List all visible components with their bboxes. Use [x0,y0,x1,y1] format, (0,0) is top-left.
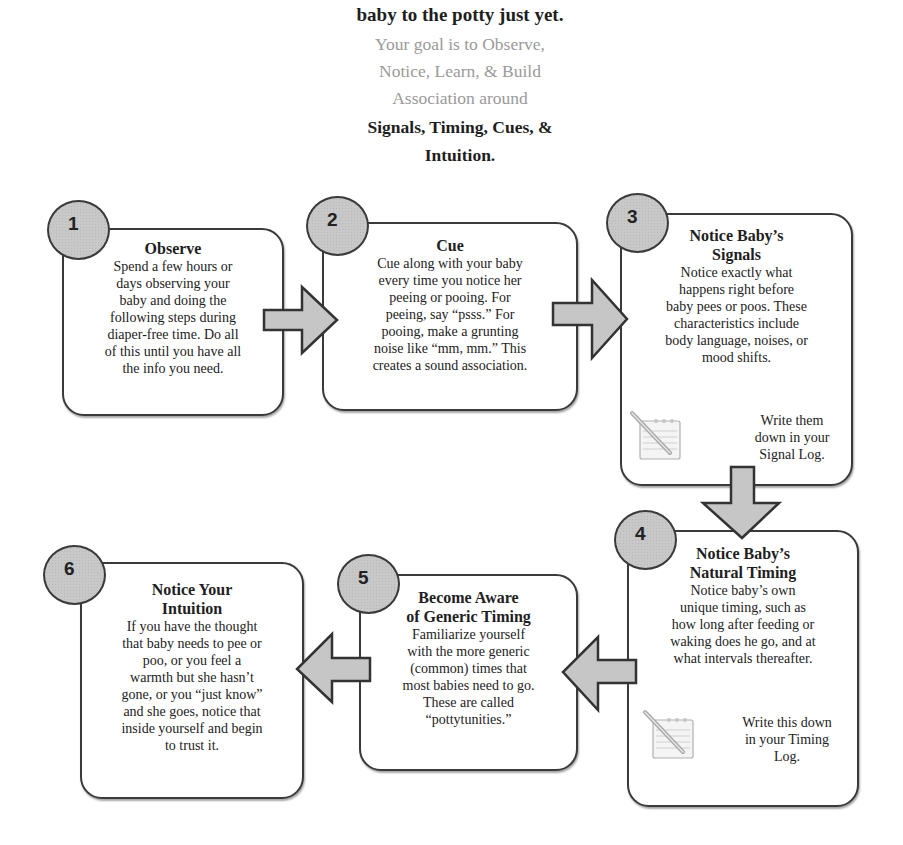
body-line: to trust it. [82,737,302,754]
header-line-2: baby to the potty just yet. [300,2,620,28]
body-line: noise like “mm, mm.” This [324,340,576,357]
body-line: pooing, make a grunting [324,323,576,340]
step-body: Notice baby’s own unique timing, such as… [629,582,857,667]
note-line: Log. [717,748,857,765]
timing-log-note: Write this down in your Timing Log. [717,714,857,765]
focus-line: Signals, Timing, Cues, & [300,113,620,141]
title-line: Intuition [82,599,302,618]
step-title: Notice Your Intuition [82,580,302,618]
goal-line: Your goal is to Observe, [300,31,620,58]
step-number: 1 [68,213,79,235]
body-line: the info you need. [64,360,282,377]
step-number: 2 [327,209,338,231]
body-line: gone, or you “just know” [82,686,302,703]
body-line: Familiarize yourself [361,626,576,643]
title-line: Signals [622,245,851,264]
title-line: Natural Timing [629,563,857,582]
notepad-pencil-icon [639,706,701,764]
body-line: (common) times that [361,660,576,677]
step-5-number-badge: 5 [337,554,400,614]
body-line: unique timing, such as [629,599,857,616]
arrow-right-icon [551,277,631,361]
body-line: with the more generic [361,643,576,660]
step-3-number-badge: 3 [606,193,669,253]
title-line: of Generic Timing [361,607,576,626]
note-line: Signal Log. [732,446,852,463]
body-line: how long after feeding or [629,616,857,633]
body-line: creates a sound association. [324,357,576,374]
step-2-box: Cue Cue along with your baby every time … [322,222,578,411]
focus-line: Intuition. [300,141,620,169]
body-line: that baby needs to pee or [82,635,302,652]
body-line: every time you notice her [324,272,576,289]
step-number: 6 [64,558,75,580]
step-body: If you have the thought that baby needs … [82,618,302,754]
body-line: waking does he go, and at [629,633,857,650]
step-body: Cue along with your baby every time you … [324,255,576,374]
note-line: Write them [732,412,852,429]
body-line: days observing your [64,275,282,292]
goal-text: Your goal is to Observe, Notice, Learn, … [300,31,620,112]
body-line: most babies need to go. [361,677,576,694]
body-line: baby pees or poos. These [622,298,851,315]
body-line: diaper-free time. Do all [64,326,282,343]
body-line: mood shifts. [622,349,851,366]
arrow-left-icon [560,634,640,714]
note-line: in your Timing [717,731,857,748]
body-line: of this until you have all [64,343,282,360]
step-6-number-badge: 6 [43,545,106,605]
arrow-down-icon [700,465,782,541]
body-line: baby and doing the [64,292,282,309]
body-line: inside yourself and begin [82,720,302,737]
body-line: what intervals thereafter. [629,650,857,667]
step-3-box: Notice Baby’s Signals Notice exactly wha… [620,213,853,486]
note-line: Write this down [717,714,857,731]
body-line: and she goes, notice that [82,703,302,720]
body-line: Cue along with your baby [324,255,576,272]
note-line: down in your [732,429,852,446]
body-line: Notice baby’s own [629,582,857,599]
step-6-box: Notice Your Intuition If you have the th… [80,562,304,799]
body-line: poo, or you feel a [82,652,302,669]
signal-log-note: Write them down in your Signal Log. [732,412,852,463]
body-line: Notice exactly what [622,264,851,281]
notepad-pencil-icon [626,407,688,465]
step-1-box: Observe Spend a few hours or days observ… [62,228,284,416]
step-number: 4 [635,523,646,545]
body-line: following steps during [64,309,282,326]
body-line: peeing, say “psss.” For [324,306,576,323]
step-number: 3 [627,206,638,228]
arrow-left-icon [294,631,374,707]
title-line: Notice Your [82,580,302,599]
step-body: Notice exactly what happens right before… [622,264,851,366]
step-1-number-badge: 1 [47,200,110,260]
step-body: Familiarize yourself with the more gener… [361,626,576,728]
body-line: characteristics include [622,315,851,332]
step-2-number-badge: 2 [306,196,369,256]
body-line: happens right before [622,281,851,298]
focus-areas: Signals, Timing, Cues, & Intuition. [300,113,620,169]
goal-line: Association around [300,85,620,112]
body-line: peeing or pooing. For [324,289,576,306]
step-number: 5 [358,567,369,589]
step-4-number-badge: 4 [614,510,677,570]
step-4-box: Notice Baby’s Natural Timing Notice baby… [627,530,859,807]
body-line: warmth but she hasn’t [82,669,302,686]
body-line: Spend a few hours or [64,258,282,275]
goal-line: Notice, Learn, & Build [300,58,620,85]
step-body: Spend a few hours or days observing your… [64,258,282,377]
arrow-right-icon [262,284,340,356]
body-line: body language, noises, or [622,332,851,349]
body-line: If you have the thought [82,618,302,635]
body-line: “pottytunities.” [361,711,576,728]
body-line: These are called [361,694,576,711]
